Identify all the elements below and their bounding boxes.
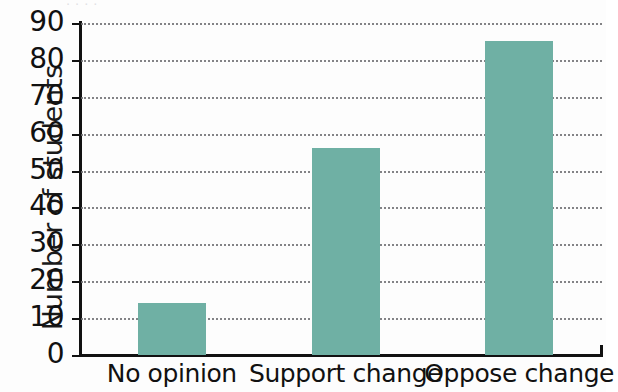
y-axis-tick-label: 60: [2, 119, 64, 147]
bar: [138, 303, 206, 355]
y-axis-tick-label: 0: [2, 340, 64, 368]
plot-area: [81, 23, 602, 355]
bar: [312, 148, 380, 355]
y-axis-tick-label: 30: [2, 229, 64, 257]
y-axis-tick-label: 50: [2, 156, 64, 184]
y-axis-tick-label: 20: [2, 266, 64, 294]
y-axis-tick-label: 90: [2, 8, 64, 36]
gridline: [81, 23, 602, 25]
x-axis-category-label: No opinion: [72, 360, 272, 388]
y-axis-tick-label: 10: [2, 303, 64, 331]
x-axis-category-label: Oppose change: [419, 360, 618, 388]
y-axis-tick-label: 40: [2, 192, 64, 220]
cropped-title-remnant: · · · ·: [0, 0, 606, 9]
y-axis-tick-label: 80: [2, 45, 64, 73]
y-axis-tick-label: 70: [2, 82, 64, 110]
bar: [485, 41, 553, 355]
x-axis-category-label: Support change: [246, 360, 446, 388]
